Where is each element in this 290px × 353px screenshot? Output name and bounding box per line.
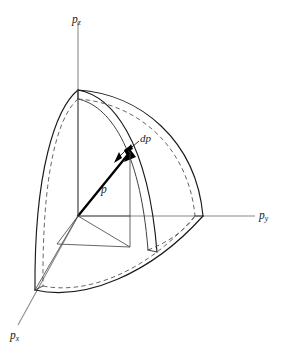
inner-meridian-left-hidden — [43, 99, 78, 286]
py-axis-label: py — [259, 210, 268, 223]
px-axis-line — [18, 216, 78, 325]
shell-thickness-label: dp — [140, 133, 151, 144]
momentum-space-shell-figure: pz py px p dp — [0, 0, 290, 353]
radius-vector-group — [35, 90, 136, 290]
projection-triangle-leg-close — [57, 244, 130, 247]
outer-shell-group — [35, 90, 203, 292]
inner-meridian-right-hidden — [78, 99, 195, 216]
px-axis-label: px — [10, 330, 19, 343]
outer-meridian-left — [35, 90, 78, 290]
dp-thickness-arrowhead-lower — [114, 152, 122, 163]
outer-meridian-cut-face — [78, 90, 157, 252]
figure-canvas — [0, 0, 290, 353]
py-axis-label-sub: y — [265, 214, 268, 223]
outer-equator-arc — [35, 216, 203, 292]
radius-vector-label: p — [101, 184, 107, 196]
shell-cut-caps-group — [35, 90, 203, 290]
outer-meridian-right — [78, 90, 203, 216]
px-axis-label-sub: x — [16, 334, 19, 343]
projection-triangle-leg-px — [57, 216, 78, 244]
inner-shell-group — [43, 99, 195, 288]
projection-triangle-base — [78, 216, 130, 247]
origin-ray-to-px-edge — [35, 216, 78, 290]
inner-equator-arc-hidden — [43, 216, 195, 288]
shell-cap-cut-bottom — [148, 250, 157, 252]
pz-axis-label: pz — [72, 14, 81, 27]
axis-group — [18, 22, 255, 325]
pz-axis-label-sub: z — [78, 18, 81, 27]
